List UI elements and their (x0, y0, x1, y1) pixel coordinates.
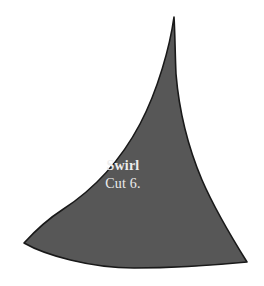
pattern-piece-svg (0, 0, 264, 286)
sail-fin-pattern-shape (24, 17, 247, 268)
pattern-piece-canvas: Swirl Cut 6. (0, 0, 264, 286)
